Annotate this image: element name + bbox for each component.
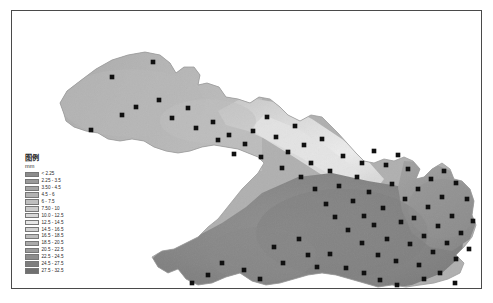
station-point[interactable]: [362, 271, 367, 276]
station-point[interactable]: [408, 242, 413, 247]
station-point[interactable]: [274, 135, 279, 140]
station-point[interactable]: [281, 261, 286, 266]
station-point[interactable]: [355, 175, 360, 180]
legend-item[interactable]: 14.5 - 16.5: [25, 226, 87, 233]
station-point[interactable]: [170, 116, 175, 121]
legend-item[interactable]: 3.50 - 4.5: [25, 185, 87, 192]
station-point[interactable]: [259, 155, 264, 160]
station-point[interactable]: [297, 237, 302, 242]
station-point[interactable]: [151, 60, 156, 65]
station-point[interactable]: [385, 237, 390, 242]
station-point[interactable]: [467, 247, 472, 252]
station-point[interactable]: [272, 245, 277, 250]
legend-item[interactable]: 7.50 - 10: [25, 205, 87, 212]
station-point[interactable]: [306, 253, 311, 258]
station-point[interactable]: [367, 190, 372, 195]
station-point[interactable]: [454, 181, 459, 186]
station-point[interactable]: [384, 163, 389, 168]
station-point[interactable]: [465, 197, 470, 202]
station-point[interactable]: [280, 166, 285, 171]
legend-item[interactable]: 27.5 - 32.5: [25, 267, 87, 274]
station-point[interactable]: [309, 161, 314, 166]
station-point[interactable]: [110, 75, 115, 80]
station-point[interactable]: [431, 250, 436, 255]
legend-item[interactable]: 10.0 - 12.5: [25, 212, 87, 219]
station-point[interactable]: [242, 268, 247, 273]
station-point[interactable]: [286, 150, 291, 155]
legend-item[interactable]: 18.5 - 20.5: [25, 240, 87, 247]
station-point[interactable]: [390, 182, 395, 187]
station-point[interactable]: [337, 184, 342, 189]
station-point[interactable]: [344, 266, 349, 271]
station-point[interactable]: [416, 187, 421, 192]
station-point[interactable]: [89, 128, 94, 133]
station-point[interactable]: [302, 143, 307, 148]
station-point[interactable]: [376, 253, 381, 258]
station-point[interactable]: [328, 169, 333, 174]
station-point[interactable]: [251, 129, 256, 134]
station-point[interactable]: [320, 137, 325, 142]
station-point[interactable]: [360, 161, 365, 166]
station-point[interactable]: [403, 197, 408, 202]
station-point[interactable]: [440, 195, 445, 200]
station-point[interactable]: [436, 224, 441, 229]
station-point[interactable]: [412, 216, 417, 221]
station-point[interactable]: [378, 278, 383, 283]
station-point[interactable]: [315, 265, 320, 270]
legend-item[interactable]: 16.5 - 18.5: [25, 233, 87, 240]
station-point[interactable]: [333, 215, 338, 220]
station-point[interactable]: [426, 205, 431, 210]
station-point[interactable]: [372, 149, 377, 154]
station-point[interactable]: [216, 138, 221, 143]
station-point[interactable]: [346, 228, 351, 233]
station-point[interactable]: [399, 220, 404, 225]
station-point[interactable]: [406, 167, 411, 172]
station-point[interactable]: [313, 187, 318, 192]
legend-item[interactable]: 2.25 - 3.5: [25, 178, 87, 185]
station-point[interactable]: [372, 223, 377, 228]
legend-item[interactable]: 4.5 - 6: [25, 192, 87, 199]
station-point[interactable]: [258, 277, 263, 282]
station-point[interactable]: [422, 277, 427, 282]
station-point[interactable]: [299, 175, 304, 180]
station-point[interactable]: [120, 113, 125, 118]
station-point[interactable]: [396, 153, 401, 158]
station-point[interactable]: [351, 199, 356, 204]
station-point[interactable]: [328, 252, 333, 257]
station-point[interactable]: [220, 261, 225, 266]
station-point[interactable]: [459, 231, 464, 236]
station-point[interactable]: [450, 214, 455, 219]
station-point[interactable]: [454, 257, 459, 262]
station-point[interactable]: [232, 152, 237, 157]
station-point[interactable]: [157, 98, 162, 103]
legend-item[interactable]: 12.5 - 14.5: [25, 219, 87, 226]
station-point[interactable]: [186, 106, 191, 111]
station-point[interactable]: [471, 219, 476, 224]
legend-item[interactable]: 22.5 - 24.5: [25, 254, 87, 261]
legend-item[interactable]: 24.5 - 27.5: [25, 261, 87, 268]
station-point[interactable]: [134, 105, 139, 110]
station-point[interactable]: [341, 154, 346, 159]
station-point[interactable]: [442, 169, 447, 174]
station-point[interactable]: [190, 281, 195, 286]
station-point[interactable]: [293, 124, 298, 129]
station-point[interactable]: [206, 273, 211, 278]
station-point[interactable]: [211, 120, 216, 125]
station-point[interactable]: [362, 214, 367, 219]
station-point[interactable]: [194, 126, 199, 131]
station-point[interactable]: [381, 206, 386, 211]
station-point[interactable]: [394, 259, 399, 264]
station-point[interactable]: [227, 133, 232, 138]
station-point[interactable]: [265, 115, 270, 120]
station-point[interactable]: [445, 241, 450, 246]
station-point[interactable]: [417, 263, 422, 268]
station-point[interactable]: [243, 142, 248, 147]
legend-item[interactable]: 6 - 7.5: [25, 199, 87, 206]
station-point[interactable]: [438, 271, 443, 276]
legend-item[interactable]: < 2.25: [25, 171, 87, 178]
station-point[interactable]: [422, 234, 427, 239]
station-point[interactable]: [360, 241, 365, 246]
station-point[interactable]: [453, 281, 458, 286]
station-point[interactable]: [395, 283, 400, 288]
legend-item[interactable]: 20.5 - 22.5: [25, 247, 87, 254]
